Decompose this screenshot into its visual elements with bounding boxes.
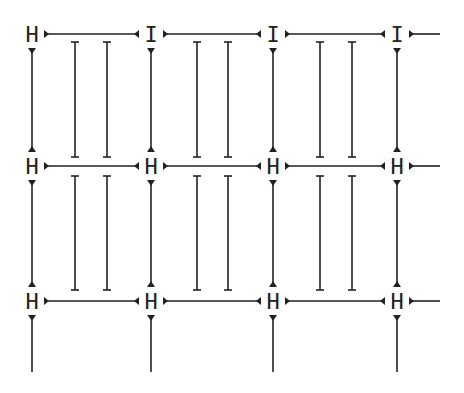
arrow-start-icon: [163, 297, 168, 305]
arrow-start-icon: [44, 297, 49, 305]
arrow-down-icon: [28, 180, 36, 186]
arrow-start-icon: [409, 297, 414, 305]
arrow-up-icon: [147, 281, 155, 287]
arrow-start-icon: [409, 162, 414, 170]
arrow-up-icon: [393, 146, 401, 152]
arrow-down-icon: [269, 48, 277, 54]
h-glyph: H: [390, 154, 403, 179]
arrow-down-icon: [28, 48, 36, 54]
arrow-up-icon: [269, 281, 277, 287]
arrow-end-icon: [134, 162, 139, 170]
arrow-start-icon: [285, 162, 290, 170]
arrow-down-icon: [393, 180, 401, 186]
arrow-start-icon: [163, 30, 168, 38]
arrow-start-icon: [285, 30, 290, 38]
i-glyph: I: [266, 22, 279, 47]
arrow-up-icon: [28, 146, 36, 152]
h-glyph: H: [144, 289, 157, 314]
h-glyph: H: [144, 154, 157, 179]
h-glyph: H: [25, 22, 38, 47]
i-glyph: I: [144, 22, 157, 47]
grid-diagram: HIIIHHHHHHHH: [0, 0, 464, 393]
arrow-up-icon: [147, 146, 155, 152]
arrow-start-icon: [285, 297, 290, 305]
arrow-start-icon: [44, 162, 49, 170]
i-glyph: I: [390, 22, 403, 47]
h-glyph: H: [390, 289, 403, 314]
arrow-down-icon: [269, 180, 277, 186]
arrow-end-icon: [256, 297, 261, 305]
arrow-start-icon: [409, 30, 414, 38]
arrow-down-icon: [147, 180, 155, 186]
arrow-up-icon: [393, 281, 401, 287]
arrow-end-icon: [380, 297, 385, 305]
h-glyph: H: [25, 154, 38, 179]
arrow-up-icon: [269, 146, 277, 152]
arrow-down-icon: [28, 315, 36, 321]
arrow-down-icon: [393, 315, 401, 321]
arrow-end-icon: [256, 30, 261, 38]
arrow-down-icon: [393, 48, 401, 54]
arrow-end-icon: [380, 30, 385, 38]
arrow-end-icon: [380, 162, 385, 170]
arrow-down-icon: [147, 48, 155, 54]
arrow-down-icon: [269, 315, 277, 321]
arrow-down-icon: [147, 315, 155, 321]
h-glyph: H: [266, 154, 279, 179]
h-glyph: H: [25, 289, 38, 314]
arrow-end-icon: [256, 162, 261, 170]
arrow-end-icon: [134, 30, 139, 38]
arrow-end-icon: [134, 297, 139, 305]
arrow-start-icon: [163, 162, 168, 170]
arrow-start-icon: [44, 30, 49, 38]
arrow-up-icon: [28, 281, 36, 287]
h-glyph: H: [266, 289, 279, 314]
